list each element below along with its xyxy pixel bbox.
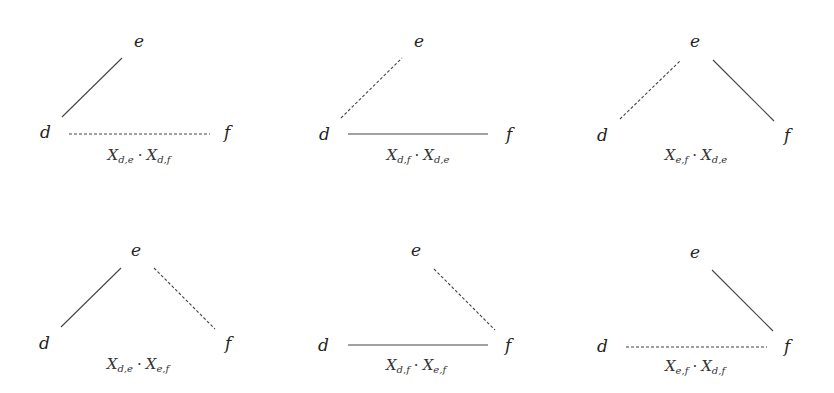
edge-e-f-dashed — [154, 268, 215, 329]
panel-4: e d f Xd,e·Xe,f — [0, 200, 278, 393]
edge-d-e-dashed — [620, 60, 681, 119]
edge-d-e-solid — [62, 58, 122, 117]
caption-3: Xe,f·Xd,e — [665, 148, 727, 165]
node-d: d — [597, 338, 608, 355]
caption-5: Xd,f·Xe,f — [386, 358, 446, 375]
node-d: d — [319, 126, 330, 143]
node-d: d — [318, 337, 329, 354]
node-d: d — [39, 335, 50, 352]
panel-3-edges — [560, 0, 834, 196]
caption-2: Xd,f·Xd,e — [387, 148, 450, 165]
node-e: e — [690, 244, 700, 261]
edge-e-f-solid — [713, 60, 774, 121]
node-f: f — [784, 338, 790, 355]
node-e: e — [414, 33, 424, 50]
node-f: f — [224, 124, 230, 141]
node-f: f — [225, 335, 231, 352]
panel-6: e d f Xe,f·Xd,f — [560, 200, 834, 393]
panel-1: e d f Xd,e·Xd,f — [0, 0, 278, 196]
node-e: e — [690, 33, 700, 50]
node-f: f — [506, 126, 512, 143]
caption-1: Xd,e·Xd,f — [108, 148, 171, 165]
caption-4: Xd,e·Xe,f — [107, 357, 169, 374]
edge-d-e-dashed — [341, 58, 402, 118]
edge-e-f-solid — [712, 270, 773, 331]
node-f: f — [505, 337, 511, 354]
node-f: f — [784, 127, 790, 144]
panel-3: e d f Xe,f·Xd,e — [560, 0, 834, 196]
panel-2: e d f Xd,f·Xd,e — [280, 0, 558, 196]
edge-e-f-dashed — [434, 269, 495, 330]
panel-2-edges — [280, 0, 558, 196]
node-d: d — [597, 127, 608, 144]
panel-1-edges — [0, 0, 278, 196]
node-e: e — [134, 33, 144, 50]
node-d: d — [40, 124, 51, 141]
panel-5: e d f Xd,f·Xe,f — [280, 200, 558, 393]
edge-d-e-solid — [61, 268, 121, 327]
node-e: e — [411, 242, 421, 259]
caption-6: Xe,f·Xd,f — [665, 359, 725, 376]
node-e: e — [131, 242, 141, 259]
